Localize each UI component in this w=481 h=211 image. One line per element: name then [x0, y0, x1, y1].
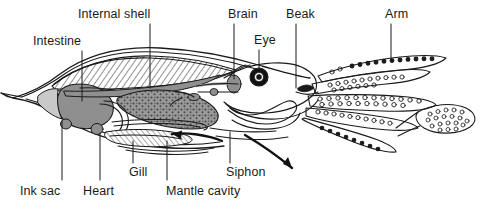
label-eye: Eye: [254, 34, 276, 47]
label-heart: Heart: [83, 185, 114, 198]
label-arm: Arm: [385, 8, 408, 21]
diagram-artwork: [0, 0, 481, 211]
tentacle-club: [396, 105, 475, 136]
heart-structure: [91, 124, 103, 135]
label-intestine: Intestine: [33, 35, 81, 48]
sucker-row-arm-4: [316, 110, 392, 125]
statocyst: [210, 89, 218, 96]
label-mantle-cavity: Mantle cavity: [166, 185, 240, 198]
eye-structure: [250, 68, 268, 86]
water-out-arrow: [245, 135, 292, 168]
label-gill: Gill: [129, 166, 147, 179]
label-internal-shell: Internal shell: [78, 8, 150, 21]
label-ink-sac: Ink sac: [20, 185, 60, 198]
squid-anatomy-diagram: Internal shell Intestine Brain Eye Beak …: [0, 0, 481, 211]
arms-structure: [302, 56, 446, 153]
sucker-row-arm-5: [320, 126, 380, 151]
digestive-gland: [117, 90, 218, 129]
label-siphon: Siphon: [226, 166, 266, 179]
label-brain: Brain: [228, 8, 258, 21]
label-beak: Beak: [286, 8, 315, 21]
